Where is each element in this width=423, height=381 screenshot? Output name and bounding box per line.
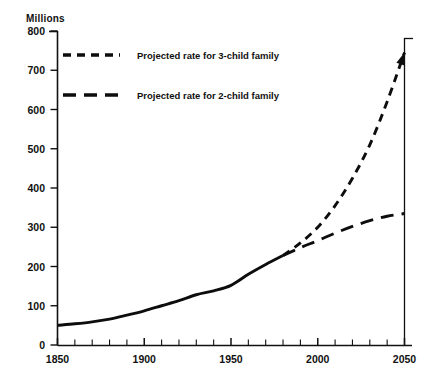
series-line xyxy=(58,256,284,326)
x-tick-label: 1950 xyxy=(219,353,243,365)
x-axis-ticks: 18501900195020002050 xyxy=(46,338,417,365)
axis-group xyxy=(49,31,413,346)
chart-legend: Projected rate for 3-child familyProject… xyxy=(63,50,280,101)
y-tick-label: 800 xyxy=(27,25,45,37)
y-tick-label: 200 xyxy=(27,261,45,273)
y-tick-label: 100 xyxy=(27,300,45,312)
series-line xyxy=(283,214,404,256)
y-tick-label: 300 xyxy=(27,221,45,233)
y-tick-label: 0 xyxy=(39,339,45,351)
x-tick-label: 2050 xyxy=(393,353,417,365)
y-tick-label: 600 xyxy=(27,104,45,116)
series-line xyxy=(283,53,404,256)
x-tick-label: 1850 xyxy=(46,353,70,365)
x-tick-label: 2000 xyxy=(306,353,330,365)
y-tick-label: 700 xyxy=(27,64,45,76)
legend-label: Projected rate for 3-child family xyxy=(137,50,280,61)
x-tick-label: 1900 xyxy=(133,353,157,365)
arrowhead-3-child xyxy=(396,53,404,66)
y-tick-label: 400 xyxy=(27,182,45,194)
population-growth-line-chart: 0100200300400500600700800 18501900195020… xyxy=(0,0,423,381)
chart-page: POPULATION GROWTH RATES Millions 0100200… xyxy=(0,0,423,381)
projection-arrowhead xyxy=(396,53,404,66)
y-tick-label: 500 xyxy=(27,143,45,155)
y-axis-ticks: 0100200300400500600700800 xyxy=(27,25,57,351)
legend-label: Projected rate for 2-child family xyxy=(137,90,280,101)
